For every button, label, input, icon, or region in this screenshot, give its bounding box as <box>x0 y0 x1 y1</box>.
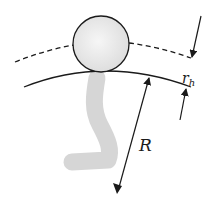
arrowhead-R-bottom <box>113 183 122 194</box>
label-R: R <box>138 135 152 155</box>
dashed-arc-right <box>129 43 191 58</box>
label-r-h: rh <box>182 70 195 88</box>
surface-arc <box>24 71 191 87</box>
sphere <box>73 16 129 72</box>
dashed-arc <box>15 45 74 62</box>
height-arrow-bottom <box>180 89 186 120</box>
diagram-canvas: rh R <box>0 0 217 205</box>
stem-shape <box>72 78 110 162</box>
diagram-svg: rh R <box>0 0 217 205</box>
height-arrow-top <box>192 16 201 57</box>
